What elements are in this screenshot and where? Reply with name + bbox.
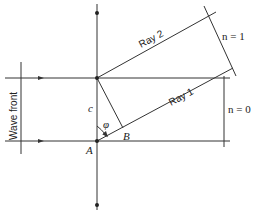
path-difference-line	[97, 78, 123, 128]
wave-front-label: Wave front	[8, 92, 19, 140]
A-label: A	[85, 144, 93, 156]
ray-1-label: Ray 1	[167, 86, 196, 108]
point-A	[95, 139, 99, 143]
phi-label: φ	[103, 118, 109, 130]
arrow-icon-top	[38, 76, 44, 80]
axis-dot-bottom	[95, 203, 99, 207]
axis-dot-top	[95, 11, 99, 15]
ray-1	[97, 68, 233, 141]
c-label: c	[88, 102, 93, 114]
diffraction-diagram: Wave front n = 0 Ray 1 Ray 2 n = 1 φ c A…	[0, 0, 256, 214]
n0-label: n = 0	[228, 103, 251, 115]
n1-label: n = 1	[222, 30, 245, 42]
ray-2	[97, 12, 216, 78]
point-top	[95, 76, 99, 80]
B-label: B	[123, 130, 130, 142]
arrow-icon-bottom	[38, 139, 44, 143]
ray-2-label: Ray 2	[137, 28, 166, 50]
